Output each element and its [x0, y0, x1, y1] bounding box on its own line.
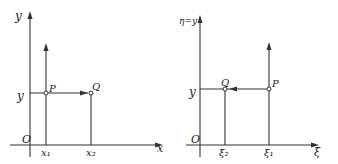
left-x1-label: x₁ [41, 147, 51, 158]
left-q-label: Q [92, 81, 100, 92]
right-xi2-label: ξ₂ [219, 147, 229, 158]
left-horizontal-arrow-icon [80, 91, 88, 96]
right-y-value-label: y [188, 85, 196, 99]
diagram-canvas: y y O P Q x₁ x₂ x η=y y O Q P ξ₂ ξ₁ ξ [0, 0, 338, 164]
right-point-p [267, 87, 271, 91]
right-xi1-label: ξ₁ [264, 147, 274, 158]
right-q-label: Q [221, 77, 229, 88]
right-x-axis-label: ξ [314, 146, 321, 159]
right-diagram: η=y y O Q P ξ₂ ξ₁ ξ [179, 15, 321, 159]
right-y-axis-label: η=y [179, 16, 198, 26]
left-y-axis-arrow-icon [28, 11, 33, 19]
left-y-value-label: y [16, 89, 24, 103]
right-vertical-arrow-icon [267, 42, 272, 50]
left-origin-label: O [22, 133, 31, 146]
right-horizontal-arrow-icon [229, 87, 237, 92]
right-origin-label: O [191, 133, 200, 146]
right-p-label: P [271, 78, 279, 89]
left-x2-label: x₂ [86, 147, 96, 158]
left-point-p [44, 91, 48, 95]
left-diagram: y y O P Q x₁ x₂ x [10, 9, 164, 158]
right-y-axis-arrow-icon [198, 15, 203, 23]
left-p-label: P [48, 83, 56, 94]
left-x-axis-label: x [157, 142, 164, 155]
left-vertical-arrow-icon [44, 43, 49, 51]
left-y-axis-label: y [14, 9, 22, 23]
